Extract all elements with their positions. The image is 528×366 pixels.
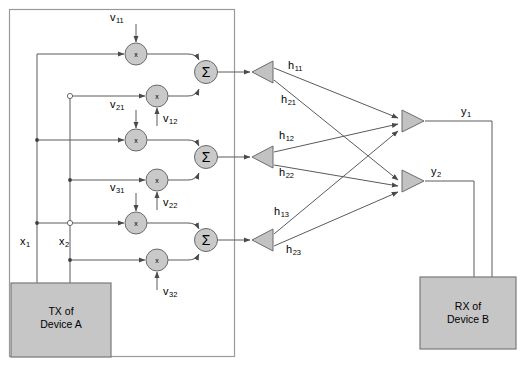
multiplier-v11 (125, 43, 147, 65)
link-mul32-sum3 (168, 254, 199, 260)
summer-3 (195, 229, 218, 252)
multiplier-v31 (125, 212, 147, 234)
link-mul22-sum2 (168, 173, 199, 180)
junction-x1-140 (35, 138, 39, 142)
label-y1: y1 (461, 106, 471, 117)
output-y1-path (425, 121, 492, 277)
label-v21: v21 (110, 99, 124, 110)
label-h13: h13 (274, 206, 289, 217)
tx-antenna-1 (252, 61, 273, 83)
junction-x2-223 (67, 220, 72, 225)
tx-device-label: TX ofDevice A (11, 305, 111, 331)
label-h11: h11 (288, 60, 302, 71)
rx-device-label: RX ofDevice B (420, 300, 516, 326)
label-x2: x2 (59, 236, 69, 247)
summer-2 (195, 146, 218, 169)
output-y2-path (425, 181, 474, 277)
label-x1: x1 (20, 236, 30, 247)
junction-x2-96 (67, 93, 72, 98)
label-h23: h23 (286, 244, 301, 255)
tx-antenna-2 (252, 146, 273, 168)
link-mul11-sum1 (147, 54, 199, 60)
label-h12: h12 (279, 130, 294, 141)
rx-antenna-2 (402, 170, 424, 192)
label-v22: v22 (163, 197, 177, 208)
multiplier-v22 (146, 169, 168, 191)
tx-antenna-3 (252, 229, 273, 251)
label-v31: v31 (110, 182, 124, 193)
channel-h11 (274, 68, 398, 118)
junction-x2-180 (68, 178, 72, 182)
diagram-canvas: x x x x x x Σ Σ Σ v11 v21 v31 v12 v22 v3… (0, 0, 528, 366)
label-h22: h22 (279, 167, 294, 178)
multiplier-v32 (146, 249, 168, 271)
label-v11: v11 (110, 12, 124, 23)
multiplier-v21 (125, 129, 147, 151)
junction-x1-223 (35, 221, 39, 225)
label-v32: v32 (163, 286, 177, 297)
multiplier-v12 (146, 85, 168, 107)
link-mul21-sum2 (147, 140, 199, 146)
label-y2: y2 (431, 166, 441, 177)
label-v12: v12 (163, 113, 177, 124)
link-mul12-sum1 (168, 89, 199, 96)
label-h21: h21 (281, 94, 296, 105)
link-mul31-sum3 (147, 223, 199, 229)
junction-x2-260 (68, 258, 72, 262)
rx-antenna-1 (402, 110, 424, 132)
summer-1 (195, 61, 218, 84)
